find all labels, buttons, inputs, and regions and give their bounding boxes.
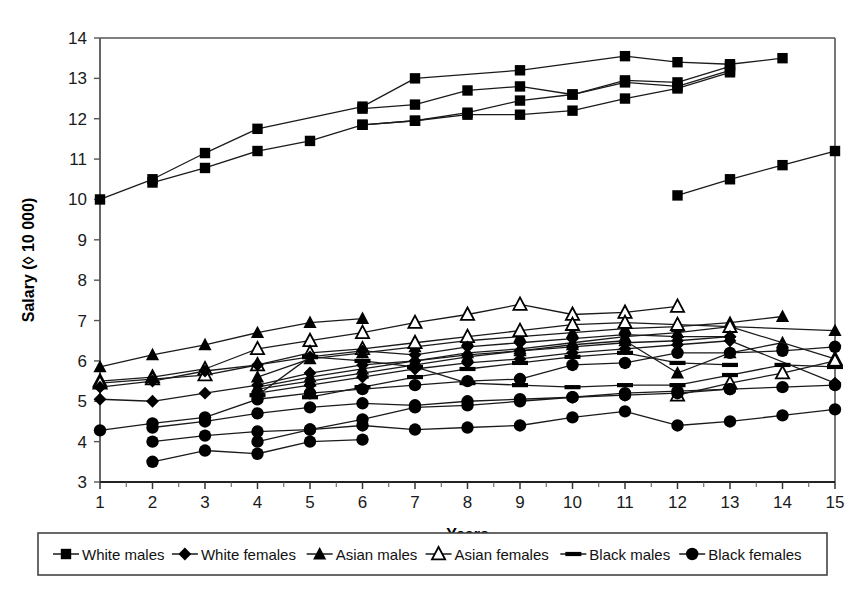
data-point-marker [617, 383, 633, 387]
data-point-marker [461, 375, 473, 387]
salary-by-race-gender-line-chart: 34567891011121314123456789101112131415Ye… [0, 0, 865, 604]
y-axis-title: Salary (◊ 10 000) [20, 198, 37, 322]
y-tick-label: 6 [78, 352, 87, 371]
data-point-marker [724, 347, 736, 359]
legend-label: Asian females [455, 546, 549, 563]
y-tick-label: 4 [78, 433, 87, 452]
chart-figure: 34567891011121314123456789101112131415Ye… [0, 0, 865, 604]
y-tick-label: 8 [78, 271, 87, 290]
y-tick-label: 13 [68, 69, 87, 88]
data-point-marker [566, 411, 578, 423]
data-point-marker [514, 419, 526, 431]
data-point-marker [515, 95, 525, 105]
data-point-marker [200, 163, 210, 173]
x-tick-label: 11 [616, 493, 634, 512]
y-tick-label: 14 [68, 29, 87, 48]
data-point-marker [304, 423, 316, 435]
x-axis: 123456789101112131415 [95, 482, 844, 512]
data-point-marker [722, 363, 738, 367]
series-line [153, 72, 731, 182]
data-point-marker [251, 407, 263, 419]
legend-marker-filled-square [61, 549, 71, 559]
data-point-marker [619, 387, 631, 399]
data-point-marker [514, 373, 526, 385]
data-point-marker [356, 397, 368, 409]
data-point-marker [410, 116, 420, 126]
data-point-marker [407, 365, 423, 369]
data-point-marker [147, 177, 157, 187]
data-point-marker [409, 379, 421, 391]
data-point-marker [776, 409, 788, 421]
x-tick-label: 5 [305, 493, 314, 512]
y-tick-label: 12 [68, 110, 87, 129]
data-point-marker [672, 190, 682, 200]
data-point-marker [515, 81, 525, 91]
data-point-marker [94, 424, 106, 436]
data-point-marker [462, 85, 472, 95]
x-tick-label: 9 [515, 493, 524, 512]
data-point-marker [251, 448, 263, 460]
data-point-marker [671, 347, 683, 359]
series-white-males [95, 51, 788, 205]
data-point-marker [304, 435, 316, 447]
data-point-marker [565, 385, 581, 389]
data-point-marker [515, 109, 525, 119]
data-point-marker [672, 57, 682, 67]
series-white-females [251, 334, 841, 399]
data-point-marker [302, 355, 318, 359]
legend-label: Black females [708, 546, 801, 563]
data-point-marker [620, 93, 630, 103]
x-tick-label: 12 [668, 493, 687, 512]
legend-marker-dash [565, 552, 581, 556]
y-tick-label: 7 [78, 312, 87, 331]
data-point-marker [356, 413, 368, 425]
data-point-marker [252, 124, 262, 134]
data-point-marker [776, 310, 789, 322]
data-point-marker [461, 421, 473, 433]
data-point-marker [722, 373, 738, 377]
data-point-marker [775, 363, 791, 367]
data-point-marker [515, 65, 525, 75]
data-point-marker [410, 73, 420, 83]
legend-label: Asian males [336, 546, 418, 563]
data-point-marker [199, 387, 212, 400]
data-point-marker [620, 77, 630, 87]
data-point-marker [409, 401, 421, 413]
x-tick-label: 1 [95, 493, 104, 512]
data-point-marker [671, 419, 683, 431]
data-point-marker [829, 379, 841, 391]
y-tick-label: 5 [78, 392, 87, 411]
data-point-marker [304, 387, 316, 399]
data-point-marker [829, 341, 841, 353]
x-tick-label: 14 [773, 493, 792, 512]
data-point-marker [566, 359, 578, 371]
data-point-marker [251, 393, 263, 405]
series-white-males [147, 67, 735, 188]
data-point-marker [94, 393, 107, 406]
x-tick-label: 6 [358, 493, 367, 512]
data-point-marker [200, 148, 210, 158]
data-point-marker [199, 444, 211, 456]
data-point-marker [567, 105, 577, 115]
chart-legend: White malesWhite femalesAsian malesAsian… [38, 533, 827, 575]
x-tick-label: 13 [721, 493, 740, 512]
data-point-marker [357, 103, 367, 113]
data-point-marker [355, 359, 371, 363]
data-point-marker [513, 297, 526, 309]
data-point-marker [304, 401, 316, 413]
data-point-marker [407, 375, 423, 379]
legend-label: Black males [589, 546, 670, 563]
data-point-marker [305, 136, 315, 146]
series-black-females [146, 403, 841, 448]
data-point-marker [670, 361, 686, 365]
data-point-marker [776, 345, 788, 357]
data-point-marker [672, 81, 682, 91]
series-line [258, 389, 731, 441]
y-tick-label: 10 [68, 190, 87, 209]
data-point-marker [671, 385, 683, 397]
data-point-marker [199, 429, 211, 441]
data-point-marker [829, 403, 841, 415]
data-point-marker [725, 65, 735, 75]
data-point-marker [830, 146, 840, 156]
series-line [678, 151, 836, 195]
